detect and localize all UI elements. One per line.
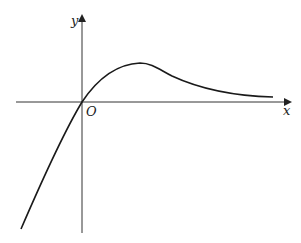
y-axis-label: y [70,13,79,28]
origin-label: O [86,104,97,119]
function-graph: y x O [0,0,301,243]
function-curve [21,63,273,229]
x-axis-label: x [283,103,291,118]
